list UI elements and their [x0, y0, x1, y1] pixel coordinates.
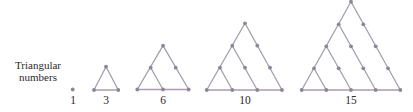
triangle-6-dot — [174, 66, 178, 70]
triangle-6-dot — [187, 88, 191, 92]
triangle-10-dot — [255, 44, 259, 48]
triangle-15-dot — [361, 22, 365, 26]
triangle-6-dot — [161, 88, 165, 92]
triangle-edges — [94, 2, 400, 90]
triangle-10-edge — [245, 23, 282, 90]
triangle-10-dot — [268, 66, 272, 70]
triangle-1-dot — [71, 88, 75, 92]
triangle-15-dot — [386, 66, 390, 70]
triangle-3-dot — [116, 88, 120, 92]
triangle-3-edge — [106, 67, 118, 90]
triangle-15-dot — [349, 44, 353, 48]
triangle-15-dot — [324, 88, 328, 92]
triangle-10-dot — [230, 88, 234, 92]
triangle-10-edge — [207, 23, 245, 90]
triangle-15-dot — [374, 44, 378, 48]
triangle-10-dot — [218, 66, 222, 70]
triangle-10-edge — [220, 68, 232, 90]
triangle-15-dot — [312, 66, 316, 70]
triangle-6-dot — [135, 88, 139, 92]
label-15: 15 — [345, 94, 357, 106]
triangle-dots — [71, 0, 402, 92]
label-3: 3 — [103, 94, 109, 106]
triangle-10-dot — [243, 21, 247, 25]
triangle-15-dot — [374, 88, 378, 92]
triangle-15-edge — [339, 24, 376, 90]
label-1: 1 — [70, 94, 76, 106]
triangle-6-dot — [149, 66, 153, 70]
number-labels: 1 3 6 10 15 — [70, 94, 357, 106]
triangle-15-dot — [398, 88, 402, 92]
triangle-15-dot — [324, 44, 328, 48]
label-6: 6 — [160, 94, 166, 106]
triangle-15-dot — [349, 88, 353, 92]
triangle-10-dot — [255, 88, 259, 92]
triangle-10-dot — [280, 88, 284, 92]
triangle-15-dot — [300, 88, 304, 92]
triangular-numbers-diagram: 1 3 6 10 15 — [0, 0, 413, 112]
label-10: 10 — [239, 94, 251, 106]
triangle-15-dot — [361, 66, 365, 70]
triangle-6-dot — [161, 44, 165, 48]
triangle-10-dot — [205, 88, 209, 92]
triangle-15-dot — [337, 22, 341, 26]
triangle-15-dot — [337, 66, 341, 70]
triangle-6-edge — [151, 68, 163, 90]
triangle-10-dot — [230, 44, 234, 48]
triangle-3-dot — [92, 88, 96, 92]
triangle-10-dot — [243, 66, 247, 70]
triangle-3-edge — [94, 67, 106, 90]
triangle-3-dot — [104, 65, 108, 69]
triangle-15-edge — [314, 68, 326, 90]
